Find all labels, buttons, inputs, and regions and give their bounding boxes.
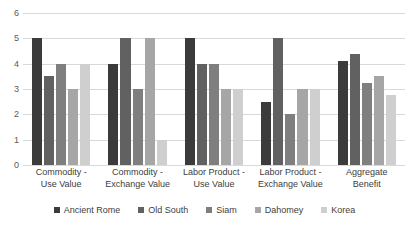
bar: [185, 38, 195, 165]
bar: [297, 89, 307, 165]
category-label-line1: Labor Product -: [259, 167, 321, 177]
bars-layer: [23, 13, 405, 165]
bar: [32, 38, 42, 165]
category-label-line2: Use Value: [177, 179, 251, 191]
bar: [362, 83, 372, 165]
bar: [209, 64, 219, 165]
chart-legend: Ancient RomeOld SouthSiamDahomeyKorea: [0, 201, 409, 219]
bar-chart: 0123456 Commodity -Use ValueCommodity -E…: [0, 0, 409, 226]
legend-swatch-icon: [255, 207, 261, 213]
bar: [261, 102, 271, 165]
bar: [68, 89, 78, 165]
bar: [157, 140, 167, 165]
category-label-line2: Benefit: [330, 179, 404, 191]
bar: [221, 89, 231, 165]
legend-label: Old South: [148, 206, 188, 215]
gridline: [23, 165, 405, 166]
bar-group: [252, 13, 328, 165]
bar: [386, 95, 396, 165]
category-label-line2: Exchange Value: [253, 179, 327, 191]
bar-group: [176, 13, 252, 165]
legend-item[interactable]: Dahomey: [255, 206, 304, 215]
y-axis-tick-label: 6: [14, 9, 19, 18]
y-axis-tick-label: 2: [14, 110, 19, 119]
bar: [374, 76, 384, 165]
bar: [133, 89, 143, 165]
x-axis-category-labels: Commodity -Use ValueCommodity -Exchange …: [23, 167, 405, 195]
y-axis-tick-label: 0: [14, 161, 19, 170]
legend-item[interactable]: Korea: [321, 206, 355, 215]
category-label-line1: Commodity -: [112, 167, 163, 177]
bar: [233, 89, 243, 165]
legend-swatch-icon: [206, 207, 212, 213]
x-axis-category-label: Commodity -Exchange Value: [99, 167, 175, 195]
bar-group: [23, 13, 99, 165]
legend-item[interactable]: Siam: [206, 206, 237, 215]
x-axis-category-label: Labor Product -Exchange Value: [252, 167, 328, 195]
legend-swatch-icon: [321, 207, 327, 213]
y-axis-tick-label: 4: [14, 59, 19, 68]
plot-area: [23, 13, 405, 165]
bar: [273, 38, 283, 165]
x-axis-category-label: Commodity -Use Value: [23, 167, 99, 195]
bar-group: [99, 13, 175, 165]
bar: [285, 114, 295, 165]
category-label-line1: Aggregate: [346, 167, 388, 177]
y-axis-tick-label: 1: [14, 135, 19, 144]
category-label-line1: Labor Product -: [183, 167, 245, 177]
bar: [350, 54, 360, 165]
y-axis-tick-labels: 0123456: [0, 13, 19, 165]
bar: [145, 38, 155, 165]
bar: [310, 89, 320, 165]
legend-swatch-icon: [54, 207, 60, 213]
bar: [338, 61, 348, 165]
y-axis-tick-label: 3: [14, 85, 19, 94]
bar-group: [329, 13, 405, 165]
bar: [108, 64, 118, 165]
x-axis-category-label: AggregateBenefit: [329, 167, 405, 195]
legend-item[interactable]: Ancient Rome: [54, 206, 121, 215]
y-axis-tick-label: 5: [14, 34, 19, 43]
bar: [197, 64, 207, 165]
legend-label: Siam: [216, 206, 237, 215]
x-axis-category-label: Labor Product -Use Value: [176, 167, 252, 195]
bar: [80, 64, 90, 165]
legend-label: Dahomey: [265, 206, 304, 215]
category-label-line1: Commodity -: [36, 167, 87, 177]
bar: [56, 64, 66, 165]
legend-label: Ancient Rome: [64, 206, 121, 215]
legend-label: Korea: [331, 206, 355, 215]
legend-swatch-icon: [138, 207, 144, 213]
category-label-line2: Exchange Value: [100, 179, 174, 191]
bar: [44, 76, 54, 165]
category-label-line2: Use Value: [24, 179, 98, 191]
legend-item[interactable]: Old South: [138, 206, 188, 215]
bar-groups: [23, 13, 405, 165]
bar: [120, 38, 130, 165]
